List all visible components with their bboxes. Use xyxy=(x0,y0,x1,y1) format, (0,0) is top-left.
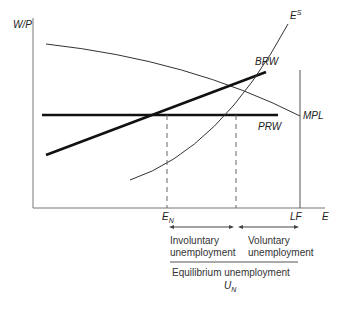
es-label: ES xyxy=(290,9,301,21)
voluntary-arrow xyxy=(238,225,299,229)
un-label: UN xyxy=(224,280,236,293)
mpl-label: MPL xyxy=(303,110,324,121)
x-axis-label: E xyxy=(322,211,329,222)
equilibrium-unemployment-label: Equilibrium unemployment xyxy=(172,267,290,279)
brw-label: BRW xyxy=(255,56,278,67)
labour-supply-curve xyxy=(130,24,288,180)
y-axis-label: W/P xyxy=(13,19,32,30)
involuntary-unemployment-label: Involuntary unemployment xyxy=(170,235,236,259)
labour-market-diagram xyxy=(0,0,347,310)
involuntary-arrow xyxy=(169,225,234,229)
brw-curve xyxy=(46,72,266,155)
mpl-curve xyxy=(46,44,300,116)
lf-label: LF xyxy=(290,211,302,222)
en-label: EN xyxy=(162,211,174,224)
prw-label: PRW xyxy=(258,121,281,132)
voluntary-unemployment-label: Voluntary unemployment xyxy=(248,235,314,259)
